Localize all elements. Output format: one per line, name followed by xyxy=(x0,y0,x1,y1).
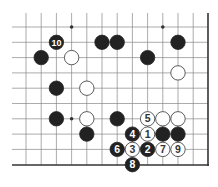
black-stone xyxy=(49,81,63,95)
black-stone xyxy=(110,35,124,49)
white-stone-move-7: 7 xyxy=(156,142,170,156)
black-stone xyxy=(171,127,185,141)
move-number-label: 10 xyxy=(51,38,61,48)
black-stone xyxy=(140,50,154,64)
move-number-label: 7 xyxy=(160,143,166,155)
white-stone xyxy=(64,50,78,64)
black-stone xyxy=(156,127,170,141)
move-number-label: 6 xyxy=(114,143,120,155)
move-number-label: 1 xyxy=(145,128,151,140)
star-point-icon xyxy=(161,25,165,29)
black-stone-move-8: 8 xyxy=(125,158,139,172)
white-stone xyxy=(80,81,94,95)
move-number-label: 3 xyxy=(129,143,135,155)
move-number-label: 9 xyxy=(175,143,181,155)
white-stone-move-3: 3 xyxy=(125,142,139,156)
black-stone xyxy=(34,50,48,64)
white-stone xyxy=(171,112,185,126)
white-stone xyxy=(156,112,170,126)
move-number-label: 8 xyxy=(129,158,135,170)
white-stone-move-9: 9 xyxy=(171,142,185,156)
white-stone xyxy=(80,112,94,126)
black-stone xyxy=(49,112,63,126)
star-point-icon xyxy=(70,25,74,29)
black-stone-move-10: 10 xyxy=(49,35,63,49)
white-stone-move-1: 1 xyxy=(140,127,154,141)
white-stone-move-5: 5 xyxy=(140,112,154,126)
black-stone xyxy=(110,112,124,126)
black-stone xyxy=(80,127,94,141)
star-point-icon xyxy=(70,117,74,121)
black-stone-move-6: 6 xyxy=(110,142,124,156)
move-number-label: 4 xyxy=(129,128,135,140)
black-stone xyxy=(95,35,109,49)
white-stone xyxy=(171,66,185,80)
go-board-diagram: 10541632798 xyxy=(0,0,218,187)
black-stone xyxy=(171,35,185,49)
black-stone-move-4: 4 xyxy=(125,127,139,141)
black-stone-move-2: 2 xyxy=(140,142,154,156)
move-number-label: 2 xyxy=(145,143,151,155)
move-number-label: 5 xyxy=(145,112,151,124)
